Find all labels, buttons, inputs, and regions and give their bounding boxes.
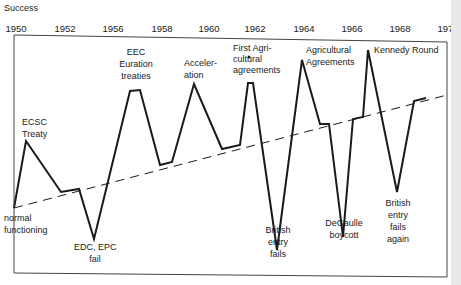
annotation-line: EDC, EPC bbox=[74, 241, 116, 253]
annotation-first-agricultural-agreements: First Agri- cultural agreements bbox=[233, 43, 281, 76]
annotation-line: Kennedy Round bbox=[374, 44, 439, 56]
annotation-line: ation bbox=[184, 69, 217, 81]
annotation-british-entry-fails: British entry fails bbox=[260, 224, 296, 260]
annotation-line: Euration bbox=[116, 58, 156, 70]
annotation-ecsc-treaty: ECSC Treaty bbox=[22, 116, 47, 140]
annotation-line: fails bbox=[260, 248, 296, 260]
page-edge-shadow bbox=[451, 0, 461, 285]
annotation-eec-euration-treaties: EEC Euration treaties bbox=[116, 46, 156, 82]
annotation-line: again bbox=[380, 233, 416, 245]
annotation-line: entry bbox=[380, 209, 416, 221]
annotation-line: Treaty bbox=[22, 128, 47, 140]
annotation-normal-functioning: normal functioning bbox=[4, 212, 48, 236]
annotation-line: normal bbox=[4, 212, 48, 224]
annotation-line: Agricultural bbox=[306, 44, 355, 56]
annotation-line: functioning bbox=[4, 224, 48, 236]
annotation-line: cultural bbox=[233, 54, 281, 65]
annotation-line: DeGaulle bbox=[320, 217, 368, 229]
annotation-kennedy-round: Kennedy Round bbox=[374, 44, 439, 56]
annotation-line: British bbox=[380, 197, 416, 209]
annotation-acceleration: Acceler- ation bbox=[184, 57, 217, 81]
annotation-line: treaties bbox=[116, 70, 156, 82]
annotation-line: British bbox=[260, 224, 296, 236]
annotation-line: First Agri- bbox=[233, 43, 281, 54]
annotation-edc-epc-fail: EDC, EPC fail bbox=[74, 241, 116, 265]
annotation-line: EEC bbox=[116, 46, 156, 58]
annotation-line: Acceler- bbox=[184, 57, 217, 69]
annotation-degaulle-boycott: DeGaulle boycott bbox=[320, 217, 368, 241]
annotation-agricultural-agreements: Agricultural Agreements bbox=[306, 44, 355, 68]
annotation-line: Agreements bbox=[306, 56, 355, 68]
annotation-british-entry-fails-again: British entry fails again bbox=[380, 197, 416, 245]
annotation-line: boycott bbox=[320, 229, 368, 241]
annotation-line: agreements bbox=[233, 65, 281, 76]
annotation-line: fail bbox=[74, 253, 116, 265]
annotation-line: fails bbox=[380, 221, 416, 233]
annotation-line: entry bbox=[260, 236, 296, 248]
annotation-line: ECSC bbox=[22, 116, 47, 128]
